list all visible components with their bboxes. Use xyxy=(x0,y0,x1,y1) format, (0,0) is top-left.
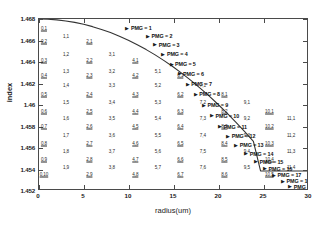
mode-index-label: 10,1 xyxy=(265,108,274,113)
x-tick-mark-top xyxy=(264,19,265,23)
arrow-right-icon: ▶ xyxy=(244,151,248,156)
arrow-right-icon: ▶ xyxy=(202,103,206,108)
y-tick-label: 1.456 xyxy=(21,144,35,151)
x-tick-mark-top xyxy=(39,19,40,23)
pmg-annotation: ▶PMG = 8 xyxy=(194,91,220,97)
mode-index-label: 0,5 xyxy=(41,91,47,96)
mode-index-label: 0,4 xyxy=(41,73,47,78)
mode-index-label: 3,4 xyxy=(109,99,115,104)
mode-index-label: 3,8 xyxy=(109,165,115,170)
x-tick-mark xyxy=(129,185,130,189)
arrow-right-icon: ▶ xyxy=(226,134,230,139)
pmg-annotation: ▶PMG = 19 xyxy=(288,184,308,190)
x-tick-mark-top xyxy=(174,19,175,23)
pmg-annotation-label: PMG = 5 xyxy=(175,61,196,67)
mode-index-label: 7,3 xyxy=(200,116,206,121)
pmg-annotation-label: PMG = 1 xyxy=(131,25,152,31)
y-tick-mark-right xyxy=(303,41,307,42)
pmg-annotation: ▶PMG = 3 xyxy=(153,42,179,48)
mode-index-label: 2,4 xyxy=(86,91,92,96)
pmg-annotation-label: PMG = 13 xyxy=(240,142,264,148)
y-tick-mark-right xyxy=(303,148,307,149)
mode-index-label: 3,5 xyxy=(109,116,115,121)
y-tick-mark-right xyxy=(303,170,307,171)
pmg-annotation: ▶PMG = 11 xyxy=(218,124,247,130)
mode-index-label: 1,3 xyxy=(63,68,69,73)
y-tick-mark-right xyxy=(303,19,307,20)
y-tick-label: 1.46 xyxy=(24,101,35,108)
mode-index-label: 2,7 xyxy=(86,140,92,145)
arrow-right-icon: ▶ xyxy=(161,52,165,57)
mode-index-label: 2,2 xyxy=(86,58,92,63)
mode-index-label: 3,1 xyxy=(109,52,115,57)
mode-index-label: 5,2 xyxy=(155,83,161,88)
mode-index-label: 1,6 xyxy=(63,116,69,121)
mode-index-label: 5,1 xyxy=(155,68,161,73)
pmg-annotation-label: PMG = 11 xyxy=(224,124,247,130)
pmg-annotation: ▶PMG = 5 xyxy=(170,61,196,67)
mode-index-label: 0,3 xyxy=(41,58,47,63)
pmg-annotation-label: PMG = 19 xyxy=(294,184,308,190)
mode-index-label: 4,8 xyxy=(132,172,138,177)
pmg-annotation: ▶PMG = 13 xyxy=(234,142,263,148)
mode-index-label: 5,6 xyxy=(155,149,161,154)
x-tick-mark-top xyxy=(129,19,130,23)
pmg-annotation-label: PMG = 10 xyxy=(216,113,240,119)
y-tick-mark-right xyxy=(303,62,307,63)
y-tick-label: 1.466 xyxy=(21,36,35,43)
mode-index-label: 0,8 xyxy=(41,140,47,145)
mode-index-label: 1,2 xyxy=(63,52,69,57)
x-tick-label: 30 xyxy=(305,192,312,199)
mode-index-label: 11,3 xyxy=(287,149,295,154)
arrow-right-icon: ▶ xyxy=(210,113,214,118)
mode-index-label: 4,6 xyxy=(132,140,138,145)
mode-index-label: 5,7 xyxy=(155,165,161,170)
mode-index-label: 2,8 xyxy=(86,157,92,162)
x-tick-label: 10 xyxy=(125,192,132,199)
mode-index-label: 9,1 xyxy=(244,99,250,104)
mode-index-label: 4,3 xyxy=(132,91,138,96)
x-axis-title: radius(um) xyxy=(38,206,308,215)
mode-index-label: 8,1 xyxy=(221,91,227,96)
mode-index-label: 0,10 xyxy=(40,172,49,177)
mode-index-label: 7,6 xyxy=(200,165,206,170)
pmg-annotation-label: PMG = 3 xyxy=(159,42,180,48)
arrow-right-icon: ▶ xyxy=(234,143,238,148)
pmg-annotation: ▶PMG = 2 xyxy=(146,33,172,39)
x-tick-mark xyxy=(39,185,40,189)
arrow-right-icon: ▶ xyxy=(288,184,292,189)
arrow-right-icon: ▶ xyxy=(263,166,267,171)
pmg-annotation-label: PMG = 6 xyxy=(183,71,204,77)
chart-figure: 0,10,20,30,40,50,60,70,80,90,101,11,21,3… xyxy=(0,0,331,240)
arrow-right-icon: ▶ xyxy=(218,124,222,129)
y-tick-label: 1.468 xyxy=(21,15,35,22)
mode-index-label: 6,2 xyxy=(177,91,183,96)
pmg-annotation-label: PMG = 16 xyxy=(269,166,293,172)
plot-area: 0,10,20,30,40,50,60,70,80,90,101,11,21,3… xyxy=(38,18,308,190)
mode-index-label: 2,6 xyxy=(86,123,92,128)
y-tick-mark-right xyxy=(303,127,307,128)
pmg-annotation: ▶PMG = 1 xyxy=(125,25,151,31)
mode-index-label: 10,3 xyxy=(265,140,274,145)
mode-index-label: 3,2 xyxy=(109,68,115,73)
pmg-annotation-label: PMG = 8 xyxy=(199,91,220,97)
mode-index-label: 3,7 xyxy=(109,149,115,154)
arrow-right-icon: ▶ xyxy=(186,82,190,87)
x-tick-mark xyxy=(84,185,85,189)
mode-index-label: 8,6 xyxy=(221,172,227,177)
pmg-annotation: ▶PMG = 15 xyxy=(254,159,283,165)
pmg-annotation: ▶PMG = 10 xyxy=(210,113,239,119)
mode-index-label: 6,6 xyxy=(177,157,183,162)
mode-index-label: 7,5 xyxy=(200,149,206,154)
y-axis-title: index xyxy=(5,68,14,118)
mode-index-label: 2,1 xyxy=(86,39,92,44)
mode-index-label: 9,5 xyxy=(244,165,250,170)
pmg-annotation: ▶PMG = 14 xyxy=(244,151,273,157)
mode-index-label: 2,5 xyxy=(86,108,92,113)
mode-index-label: 8,4 xyxy=(221,140,227,145)
y-tick-mark xyxy=(39,105,43,106)
mode-index-label: 11,2 xyxy=(287,133,295,138)
mode-index-label: 5,5 xyxy=(155,133,161,138)
x-tick-mark xyxy=(219,185,220,189)
mode-index-label: 6,7 xyxy=(177,172,183,177)
